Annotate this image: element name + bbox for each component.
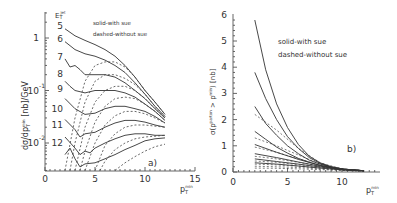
- panel-a-x-axis-label: pTmin: [180, 184, 193, 195]
- y-tick-exponent: -1: [39, 82, 45, 89]
- y-tick-label: 1: [221, 141, 227, 151]
- panel-b-y-axis-label: σ(pparton > pmin) [nb]: [208, 68, 217, 135]
- panel-a-curve-labels: 56789101112: [52, 21, 64, 148]
- y-tick-label: 3: [221, 88, 227, 98]
- curve-label: 9: [57, 84, 63, 94]
- solid-curve: [65, 42, 165, 117]
- panel-b-tick-labels: 05100123456: [221, 10, 348, 187]
- x-tick-label: 0: [42, 174, 48, 184]
- curve-label: 5: [57, 21, 63, 31]
- x-tick-label: 5: [92, 174, 98, 184]
- panel-a-y-axis-label: dσ/dpTmin [nb]/GeV: [21, 81, 31, 150]
- solid-curve: [65, 59, 165, 118]
- panel-a: 051015110-110-2 56789101112 ETjet solid-…: [21, 10, 201, 195]
- x-tick-label: 15: [189, 174, 200, 184]
- panel-b-x-axis-label: pTmin: [366, 185, 379, 196]
- panel-b-label: b): [347, 144, 356, 154]
- y-tick-label: 0: [221, 167, 227, 177]
- y-tick-label: 5: [221, 36, 227, 46]
- dashed-curve: [115, 144, 165, 170]
- x-tick-label: 10: [139, 174, 151, 184]
- curve-label: 11: [52, 120, 63, 130]
- panel-a-curve-header: ETjet: [55, 10, 66, 20]
- panel-b-legend-dashed: dashed-without sue: [278, 51, 347, 59]
- panel-a-label: a): [148, 158, 157, 168]
- panel-a-legend-solid: solid-with sue: [93, 20, 132, 26]
- x-tick-label: 5: [285, 177, 291, 187]
- x-tick-label: 10: [336, 177, 348, 187]
- curve-label: 12: [52, 138, 63, 148]
- solid-curve: [65, 29, 165, 115]
- panel-b: 05100123456 solid-with sue dashed-withou…: [208, 10, 380, 196]
- figure: 051015110-110-2 56789101112 ETjet solid-…: [0, 0, 397, 203]
- y-tick-label: 2: [221, 115, 227, 125]
- curve-label: 7: [57, 52, 63, 62]
- y-tick-label: 4: [221, 62, 227, 72]
- solid-curve: [65, 99, 165, 123]
- y-tick-label: 6: [221, 10, 227, 20]
- y-tick-exponent: -2: [39, 134, 45, 141]
- panel-a-solid-curves: [65, 29, 165, 167]
- panel-a-legend-dashed: dashed-without sue: [93, 31, 148, 37]
- curve-label: 10: [52, 104, 64, 114]
- x-tick-label: 0: [230, 177, 236, 187]
- y-tick-label: 1: [33, 33, 39, 43]
- panel-b-legend-solid: solid-with sue: [278, 38, 326, 46]
- curve-label: 8: [57, 69, 63, 79]
- curve-label: 6: [57, 34, 63, 44]
